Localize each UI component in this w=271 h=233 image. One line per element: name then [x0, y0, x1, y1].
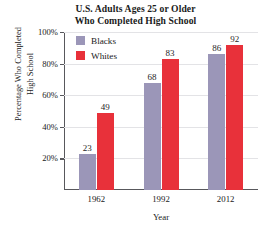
bar-blacks-1962: 23 [79, 154, 96, 190]
plot-area: 20%40%60%80%100% 234968838692 1962199220… [64, 32, 258, 190]
bar-value-label: 92 [230, 35, 239, 44]
y-tick-label: 40% [42, 123, 58, 132]
y-tick-mark [60, 95, 64, 96]
y-tick-label: 100% [38, 28, 58, 37]
y-axis-title-line-2: High School [25, 0, 37, 159]
y-tick-mark [60, 127, 64, 128]
x-tick-label: 1992 [152, 195, 170, 204]
bar-chart-figure: U.S. Adults Ages 25 or Older Who Complet… [0, 0, 271, 233]
legend: Blacks Whites [76, 35, 117, 61]
x-axis-title: Year [64, 212, 258, 222]
bar-blacks-1992: 68 [144, 83, 161, 190]
gridline [64, 32, 258, 33]
bar-value-label: 86 [212, 44, 221, 53]
x-tick-label: 1962 [88, 195, 106, 204]
y-tick-label: 20% [42, 154, 58, 163]
legend-item-whites: Whites [76, 50, 117, 61]
bar-blacks-2012: 86 [208, 54, 225, 190]
y-axis-title: Percentage Who Completed High School [13, 0, 41, 159]
bar-value-label: 49 [101, 103, 110, 112]
legend-swatch-whites [76, 51, 85, 60]
legend-label-whites: Whites [91, 51, 117, 61]
x-tick-label: 2012 [217, 195, 235, 204]
y-axis-title-line-1: Percentage Who Completed [13, 0, 25, 159]
y-tick-mark [60, 32, 64, 33]
y-tick-mark [60, 158, 64, 159]
bar-value-label: 83 [166, 49, 175, 58]
y-tick-label: 80% [42, 59, 58, 68]
bar-value-label: 68 [148, 73, 157, 82]
bar-whites-1992: 83 [162, 59, 179, 190]
legend-swatch-blacks [76, 36, 85, 45]
legend-label-blacks: Blacks [91, 36, 116, 46]
bar-whites-1962: 49 [97, 113, 114, 190]
bar-value-label: 23 [83, 144, 92, 153]
bar-whites-2012: 92 [226, 45, 243, 190]
legend-item-blacks: Blacks [76, 35, 117, 46]
y-tick-label: 60% [42, 91, 58, 100]
y-tick-mark [60, 64, 64, 65]
